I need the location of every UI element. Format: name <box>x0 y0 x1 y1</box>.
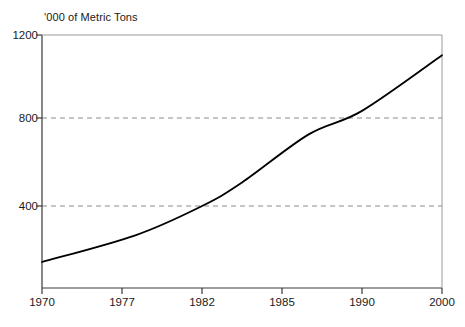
gridlines <box>42 118 442 206</box>
y-axis-ticks <box>36 35 42 206</box>
chart-canvas <box>0 0 465 327</box>
x-axis-ticks <box>42 288 442 294</box>
data-series-line <box>42 55 442 262</box>
plot-frame <box>42 35 442 288</box>
line-chart: '000 of Metric Tons 1200 800 400 1970 19… <box>0 0 465 327</box>
